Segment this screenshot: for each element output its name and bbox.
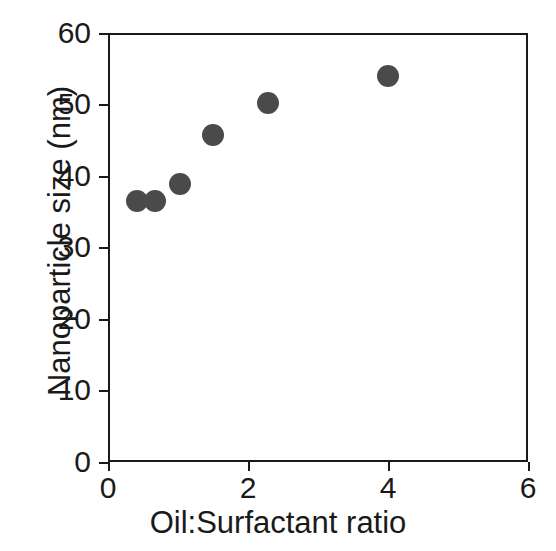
y-tick-mark	[99, 319, 108, 321]
data-point	[144, 190, 166, 212]
x-tick-mark	[528, 462, 530, 471]
y-tick-mark	[99, 33, 108, 35]
x-axis-title: Oil:Surfactant ratio	[0, 505, 556, 541]
y-tick-mark	[99, 247, 108, 249]
data-point	[169, 173, 191, 195]
data-point	[257, 92, 279, 114]
x-tick-mark	[248, 462, 250, 471]
data-point	[377, 65, 399, 87]
data-point	[202, 124, 224, 146]
x-tick-label-2: 2	[208, 473, 288, 503]
y-tick-mark	[99, 176, 108, 178]
scatter-chart-figure: 0 10 20 30 40 50 60 0 2 4 6 Oil:Surfacta…	[0, 0, 556, 551]
x-tick-label-6: 6	[488, 473, 556, 503]
x-tick-label-0: 0	[68, 473, 148, 503]
x-tick-mark	[108, 462, 110, 471]
y-tick-mark	[99, 390, 108, 392]
plot-area-frame	[108, 33, 528, 462]
y-tick-mark	[99, 462, 108, 464]
y-tick-mark	[99, 104, 108, 106]
y-axis-title: Nanoparticle size (nm)	[42, 26, 78, 456]
x-tick-mark	[388, 462, 390, 471]
x-tick-label-4: 4	[348, 473, 428, 503]
